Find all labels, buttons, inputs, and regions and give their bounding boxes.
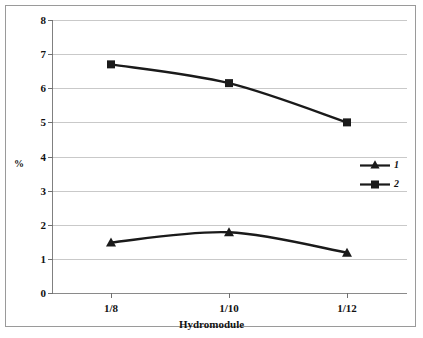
y-tick-mark-0 [48,293,53,294]
square-marker-icon [358,175,392,194]
x-tick-mark-1 [229,293,230,298]
x-tick-mark-0 [111,293,112,298]
x-tick-label-2: 1/12 [337,302,357,314]
chart-frame: % 012345678 1/81/101/12 Hydromodule 1 2 [5,5,416,327]
y-tick-mark-3 [48,191,53,192]
triangle-marker-icon [358,156,392,175]
y-tick-mark-6 [48,88,53,89]
legend-item-1[interactable]: 1 [358,156,410,175]
y-tick-mark-4 [48,157,53,158]
x-tick-label-0: 1/8 [104,302,118,314]
x-axis-title: Hydromodule [6,318,417,330]
x-tick-mark-2 [347,293,348,298]
data-point-2-2 [343,118,351,126]
series-lines [6,6,417,328]
legend-label-2: 2 [394,178,399,189]
y-tick-mark-2 [48,225,53,226]
y-tick-mark-8 [48,20,53,21]
legend-item-2[interactable]: 2 [358,175,410,194]
x-tick-label-1: 1/10 [219,302,239,314]
data-point-2-1 [225,79,233,87]
chart-legend: 1 2 [358,156,410,194]
data-point-2-0 [107,60,115,68]
plot-wrapper: % 012345678 1/81/101/12 Hydromodule 1 2 [6,6,417,328]
y-tick-mark-1 [48,259,53,260]
legend-label-1: 1 [394,159,399,170]
y-tick-mark-7 [48,54,53,55]
y-tick-mark-5 [48,122,53,123]
series-line-2 [111,64,347,122]
